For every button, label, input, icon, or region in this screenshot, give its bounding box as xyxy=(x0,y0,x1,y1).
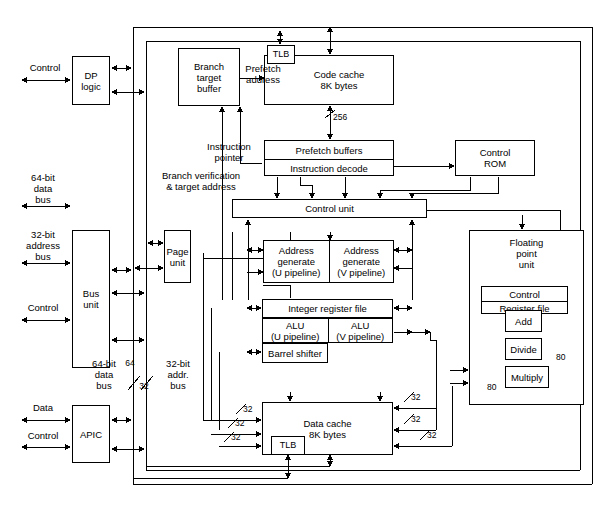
bus-width-32-c-label: 32 xyxy=(231,432,247,443)
fpu-multiply-label: Multiply xyxy=(511,372,543,383)
fpu-label-2: point xyxy=(510,248,544,259)
bus-width-32-label: 32 xyxy=(136,381,152,392)
data-bus-64-label: 64-bit data bus xyxy=(14,172,72,205)
bus-32-addr-bus-label: 32-bit addr. bus xyxy=(152,358,204,391)
code-cache-tlb-block[interactable]: TLB xyxy=(267,45,295,64)
fpu-control-label: Control xyxy=(509,289,540,300)
pentium-block-diagram: DP logic Bus unit Page unit APIC Branch … xyxy=(0,0,597,505)
code-tlb-label: TLB xyxy=(273,49,290,60)
page-unit-label-2: unit xyxy=(166,257,188,268)
alu-v-label-2: (V pipeline) xyxy=(336,331,384,342)
bus-width-80-a-label: 80 xyxy=(556,352,572,363)
dp-logic-label-2: logic xyxy=(81,81,101,92)
instruction-pointer-label: Instruction pointer xyxy=(197,141,261,163)
control-bottom-label: Control xyxy=(14,430,72,441)
data-cache-tlb-block[interactable]: TLB xyxy=(271,436,305,455)
alu-block[interactable]: ALU (U pipeline) ALU (V pipeline) xyxy=(262,318,393,343)
barrel-shifter-block[interactable]: Barrel shifter xyxy=(262,343,328,363)
code-cache-label-2: 8K bytes xyxy=(314,80,365,91)
prefetch-decode-block[interactable]: Prefetch buffers Instruction decode xyxy=(264,140,394,176)
prefetch-buffers-label: Prefetch buffers xyxy=(296,145,363,156)
address-generate-v-pipeline[interactable]: Address generate (V pipeline) xyxy=(329,241,394,282)
data-cache-label-1: Data cache xyxy=(303,418,351,429)
control-rom-label-2: ROM xyxy=(480,158,511,169)
bus-width-32-d-label: 32 xyxy=(411,392,427,403)
code-cache-label-1: Code cache xyxy=(314,69,365,80)
integer-register-file-block[interactable]: Integer register file xyxy=(262,299,393,318)
page-unit-block[interactable]: Page unit xyxy=(164,230,191,283)
control-rom-block[interactable]: Control ROM xyxy=(455,140,535,176)
control-mid-label: Control xyxy=(14,302,72,313)
ag-u-label-2: generate xyxy=(277,256,315,267)
alu-u-label-1: ALU xyxy=(286,320,304,331)
apic-block[interactable]: APIC xyxy=(72,405,110,463)
alu-v-pipeline[interactable]: ALU (V pipeline) xyxy=(328,319,393,342)
bus-width-64-label: 64 xyxy=(122,358,138,369)
data-cache-label-2: 8K bytes xyxy=(303,429,351,440)
bus-width-80-b-label: 80 xyxy=(487,382,503,393)
control-unit-label: Control unit xyxy=(305,203,354,214)
control-top-label: Control xyxy=(16,62,74,73)
bus-unit-label-1: Bus xyxy=(83,288,99,299)
prefetch-address-label: Prefetch address xyxy=(238,63,288,85)
address-generate-u-pipeline[interactable]: Address generate (U pipeline) xyxy=(264,241,329,282)
address-bus-32-label: 32-bit address bus xyxy=(14,229,72,262)
btb-label-2: target xyxy=(194,72,224,83)
irf-label: Integer register file xyxy=(288,303,367,314)
branch-target-buffer-block[interactable]: Branch target buffer xyxy=(178,48,240,106)
instruction-decode-label: Instruction decode xyxy=(290,163,368,174)
alu-u-pipeline[interactable]: ALU (U pipeline) xyxy=(263,319,328,342)
ag-v-label-1: Address xyxy=(344,245,379,256)
fpu-add-label: Add xyxy=(515,316,532,327)
address-generate-block[interactable]: Address generate (U pipeline) Address ge… xyxy=(263,240,394,283)
data-left-label: Data xyxy=(14,402,72,413)
prefetch-buffers-row[interactable]: Prefetch buffers xyxy=(265,141,393,159)
data-tlb-label: TLB xyxy=(280,440,297,451)
page-unit-label-1: Page xyxy=(166,246,188,257)
control-rom-label-1: Control xyxy=(480,147,511,158)
bus-width-32-a-label: 32 xyxy=(243,404,259,415)
ag-v-label-3: (V pipeline) xyxy=(337,267,385,278)
instruction-decode-row[interactable]: Instruction decode xyxy=(265,159,393,177)
bus-unit-label-2: unit xyxy=(83,299,99,310)
dp-logic-block[interactable]: DP logic xyxy=(72,56,110,105)
btb-label-1: Branch xyxy=(194,61,224,72)
fpu-multiply-block[interactable]: Multiply xyxy=(505,366,549,388)
btb-label-3: buffer xyxy=(194,83,224,94)
bus-unit-block[interactable]: Bus unit xyxy=(72,230,110,368)
fpu-label-3: unit xyxy=(510,259,544,270)
bus-width-32-b-label: 32 xyxy=(235,418,251,429)
branch-verification-label: Branch verification & target address xyxy=(141,170,261,192)
alu-v-label-1: ALU xyxy=(351,320,369,331)
control-unit-block[interactable]: Control unit xyxy=(232,199,427,218)
fpu-label-1: Floating xyxy=(510,237,544,248)
bus-width-32-e-label: 32 xyxy=(411,414,427,425)
fpu-add-block[interactable]: Add xyxy=(505,310,542,332)
dp-logic-label-1: DP xyxy=(81,70,101,81)
alu-u-label-2: (U pipeline) xyxy=(271,331,320,342)
fpu-divide-block[interactable]: Divide xyxy=(505,338,542,360)
barrel-shifter-label: Barrel shifter xyxy=(268,348,322,359)
apic-label: APIC xyxy=(80,429,102,440)
fpu-divide-label: Divide xyxy=(510,344,536,355)
ag-u-label-3: (U pipeline) xyxy=(272,267,321,278)
ag-v-label-2: generate xyxy=(342,256,380,267)
fpu-control-row[interactable]: Control xyxy=(482,287,567,301)
integer-register-file-row[interactable]: Integer register file xyxy=(263,300,392,317)
ag-u-label-1: Address xyxy=(279,245,314,256)
bus-width-32-f-label: 32 xyxy=(427,430,443,441)
bus-width-256-label: 256 xyxy=(333,112,355,123)
